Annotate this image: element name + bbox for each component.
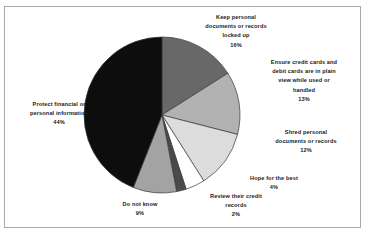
slice-value-shred: 12% xyxy=(248,146,364,155)
slice-label-keep-line2: documents or records xyxy=(205,23,266,29)
slice-label-ensure-line4: handled xyxy=(293,87,315,93)
slice-label-protect: Protect financial or personal informatio… xyxy=(6,100,112,128)
slice-label-review-line2: records xyxy=(225,202,246,208)
slice-label-do-not-know-line1: Do not know xyxy=(123,201,158,207)
slice-label-ensure-line3: view while used or xyxy=(278,77,329,83)
slice-label-protect-line1: Protect financial or xyxy=(33,101,86,107)
slice-label-review-line1: Review their credit xyxy=(210,193,262,199)
slice-label-do-not-know: Do not know 9% xyxy=(98,200,182,218)
slice-label-review: Review their credit records 2% xyxy=(196,192,276,220)
slice-value-do-not-know: 9% xyxy=(98,209,182,218)
slice-label-keep: Keep personal documents or records locke… xyxy=(177,13,295,50)
slice-label-hope: Hope for the best 4% xyxy=(228,174,320,192)
slice-value-review: 2% xyxy=(196,210,276,219)
slice-value-keep: 16% xyxy=(177,41,295,50)
slice-label-ensure-line1: Ensure credit cards and xyxy=(271,59,337,65)
slice-value-ensure: 13% xyxy=(243,95,365,104)
slice-label-shred-line1: Shred personal xyxy=(285,129,327,135)
slice-label-keep-line1: Keep personal xyxy=(216,14,256,20)
slice-value-protect: 44% xyxy=(6,118,112,127)
slice-label-ensure: Ensure credit cards and debit cards are … xyxy=(243,58,365,104)
slice-label-shred-line2: documents or records xyxy=(275,138,336,144)
pie-chart-figure: Keep personal documents or records locke… xyxy=(0,0,368,236)
slice-label-ensure-line2: debit cards are in plain xyxy=(272,68,336,74)
slice-label-hope-line1: Hope for the best xyxy=(250,175,298,181)
slice-label-shred: Shred personal documents or records 12% xyxy=(248,128,364,156)
slice-label-keep-line3: locked up xyxy=(222,32,249,38)
slice-label-protect-line2: personal information xyxy=(30,110,88,116)
